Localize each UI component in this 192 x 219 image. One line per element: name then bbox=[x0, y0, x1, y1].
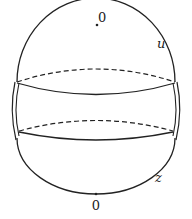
u-label: u bbox=[157, 36, 165, 51]
band-left-inner bbox=[16, 83, 19, 136]
sphere-lower-arc bbox=[17, 138, 175, 194]
upper-latitude-back bbox=[17, 69, 175, 82]
band-left-outer bbox=[12, 82, 16, 140]
lower-latitude-back bbox=[19, 121, 173, 132]
lower-latitude-front bbox=[19, 132, 173, 140]
sphere-diagram: 0 0 u z bbox=[0, 0, 192, 219]
upper-latitude-front bbox=[17, 83, 175, 95]
band-right-outer bbox=[176, 82, 180, 140]
top-point-label: 0 bbox=[98, 10, 106, 25]
sphere-upper-arc bbox=[17, 0, 175, 82]
band-right-inner bbox=[173, 83, 176, 136]
bottom-point-label: 0 bbox=[92, 198, 100, 213]
bottom-point-marker bbox=[95, 193, 98, 196]
z-label: z bbox=[154, 170, 162, 185]
